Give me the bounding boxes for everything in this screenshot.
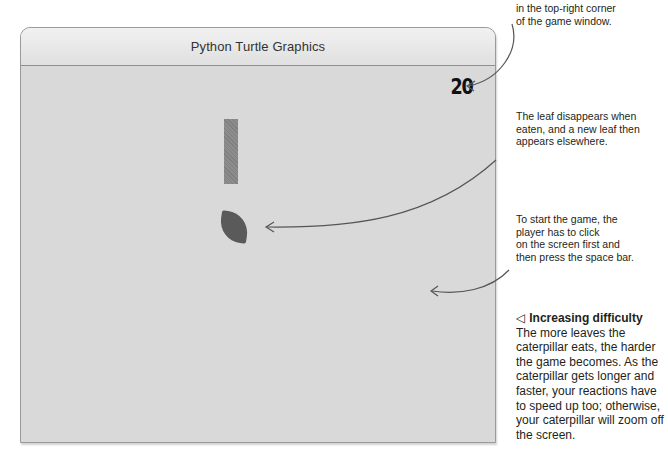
- window-titlebar[interactable]: Python Turtle Graphics: [21, 28, 495, 66]
- score-display: 20: [451, 74, 473, 99]
- left-triangle-icon: ◁: [516, 311, 525, 325]
- turtle-graphics-window: Python Turtle Graphics 20: [20, 27, 496, 443]
- annotation-start: To start the game, the player has to cli…: [516, 213, 634, 263]
- caterpillar: [224, 119, 238, 184]
- caption-title-row: ◁Increasing difficulty: [516, 311, 668, 326]
- caption-title: Increasing difficulty: [529, 311, 642, 325]
- annotation-line: The leaf disappears when: [516, 110, 640, 123]
- annotation-line: appears elsewhere.: [516, 135, 640, 148]
- annotation-score: in the top-right corner of the game wind…: [516, 2, 616, 27]
- annotation-line: in the top-right corner: [516, 2, 616, 15]
- annotation-line: on the screen first and: [516, 238, 634, 251]
- annotation-line: To start the game, the: [516, 213, 634, 226]
- annotation-line: player has to click: [516, 226, 634, 239]
- game-canvas[interactable]: 20: [21, 66, 495, 442]
- annotation-line: of the game window.: [516, 15, 616, 28]
- window-title: Python Turtle Graphics: [191, 39, 325, 54]
- caption-body: The more leaves the caterpillar eats, th…: [516, 326, 668, 443]
- leaf: [218, 210, 250, 244]
- annotation-line: eaten, and a new leaf then: [516, 123, 640, 136]
- annotation-line: then press the space bar.: [516, 251, 634, 264]
- caption-increasing-difficulty: ◁Increasing difficulty The more leaves t…: [516, 311, 668, 442]
- annotation-leaf: The leaf disappears when eaten, and a ne…: [516, 110, 640, 148]
